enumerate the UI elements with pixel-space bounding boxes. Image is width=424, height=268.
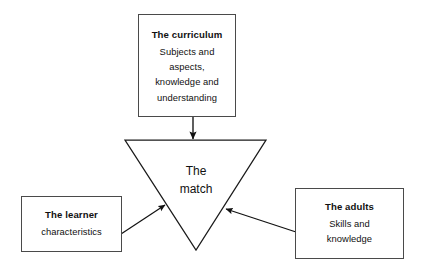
node-adults-line-2: knowledge	[327, 231, 372, 246]
node-adults[interactable]: The adults Skills and knowledge	[295, 188, 404, 259]
node-learner-line-1: characteristics	[41, 224, 102, 239]
node-curriculum-line-2: aspects,	[169, 59, 204, 74]
node-curriculum-title: The curriculum	[152, 28, 223, 43]
node-curriculum[interactable]: The curriculum Subjects and aspects, kno…	[138, 14, 236, 117]
connector-adults-to-match	[226, 209, 296, 232]
node-curriculum-line-3: knowledge and	[155, 74, 219, 89]
node-curriculum-line-1: Subjects and	[160, 44, 215, 59]
node-adults-title: The adults	[325, 200, 374, 215]
node-learner[interactable]: The learner characteristics	[21, 196, 122, 252]
node-learner-title: The learner	[45, 208, 98, 223]
match-triangle	[125, 140, 266, 250]
node-adults-line-1: Skills and	[329, 216, 370, 231]
connector-learner-to-match	[121, 205, 165, 234]
node-curriculum-line-4: understanding	[157, 90, 217, 105]
diagram-canvas: The curriculum Subjects and aspects, kno…	[0, 0, 424, 268]
